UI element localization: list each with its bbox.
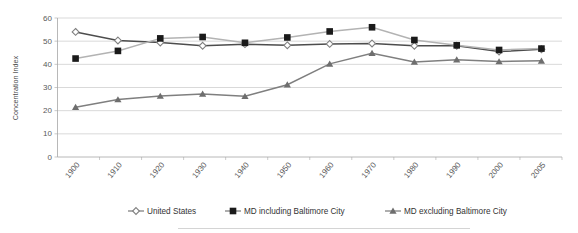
data-series-layer [72, 24, 545, 110]
x-tick-label: 1950 [275, 160, 294, 180]
y-tick-label: 60 [43, 14, 52, 23]
diamond-open-marker [284, 42, 291, 49]
diamond-open-marker [115, 37, 122, 44]
legend-item-1[interactable]: United States [128, 207, 196, 216]
y-axis-title-text: Concentration Index [11, 55, 20, 120]
chart-legend: United StatesMD including Baltimore City… [128, 207, 508, 216]
square-filled-marker [538, 45, 545, 52]
y-axis-ticks: 0102030405060 [43, 14, 57, 162]
legend-label: United States [147, 207, 196, 216]
series-1 [72, 29, 545, 55]
y-axis-title: Concentration Index [11, 55, 20, 120]
square-filled-marker [72, 55, 79, 62]
y-tick-label: 20 [43, 106, 52, 115]
y-tick-label: 40 [43, 60, 52, 69]
y-tick-label: 30 [43, 83, 52, 92]
square-filled-marker [326, 28, 333, 35]
x-tick-label: 1980 [402, 160, 421, 180]
triangle-filled-marker [368, 50, 375, 56]
square-filled-marker [230, 208, 237, 215]
square-filled-marker [369, 24, 376, 31]
y-tick-label: 10 [43, 129, 52, 138]
x-tick-label: 1940 [233, 160, 252, 180]
square-filled-marker [411, 37, 418, 44]
chart-container: Concentration Index 0102030405060 190019… [0, 0, 578, 233]
x-tick-label: 1910 [106, 160, 125, 180]
x-tick-label: 1960 [317, 160, 336, 180]
square-filled-marker [199, 34, 206, 41]
series-3 [72, 50, 545, 110]
x-tick-label: 1920 [148, 160, 167, 180]
square-filled-marker [284, 34, 291, 41]
diamond-open-marker [133, 208, 140, 215]
square-filled-marker [496, 47, 503, 54]
y-tick-label: 0 [48, 153, 53, 162]
diamond-open-marker [199, 42, 206, 49]
x-tick-label: 1900 [63, 160, 82, 180]
square-filled-marker [157, 35, 164, 42]
x-tick-label: 1930 [190, 160, 209, 180]
x-axis-ticks: 1900191019201930194019501960197019801990… [63, 157, 562, 180]
series-line [76, 27, 542, 58]
x-tick-label: 2000 [487, 160, 506, 180]
line-chart: Concentration Index 0102030405060 190019… [0, 0, 578, 233]
legend-label: MD including Baltimore City [244, 207, 345, 216]
x-tick-label: 1970 [360, 160, 379, 180]
triangle-filled-marker [284, 81, 291, 87]
y-tick-label: 50 [43, 37, 52, 46]
x-tick-label: 2005 [529, 160, 548, 180]
series-line [76, 53, 542, 107]
x-tick-label: 1990 [444, 160, 463, 180]
legend-item-3[interactable]: MD excluding Baltimore City [385, 207, 508, 216]
legend-label: MD excluding Baltimore City [404, 207, 508, 216]
legend-item-2[interactable]: MD including Baltimore City [225, 207, 345, 216]
square-filled-marker [115, 48, 122, 55]
series-2 [72, 24, 544, 62]
diamond-open-marker [326, 41, 333, 48]
square-filled-marker [453, 42, 460, 49]
gridlines [58, 18, 563, 134]
diamond-open-marker [411, 42, 418, 49]
diamond-open-marker [72, 29, 79, 36]
square-filled-marker [242, 39, 249, 46]
